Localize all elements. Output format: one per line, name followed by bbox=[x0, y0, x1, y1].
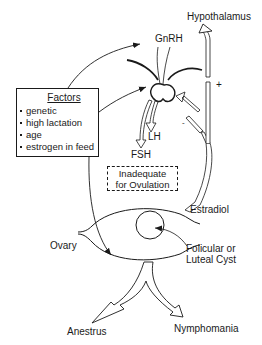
estradiol-upper-path bbox=[206, 82, 210, 143]
plus-sign-label: + bbox=[216, 79, 222, 91]
hypothalamus-curve-right bbox=[168, 68, 202, 80]
factor-item: genetic bbox=[20, 105, 96, 117]
estradiol-label: Estradiol bbox=[190, 204, 229, 216]
ovary-outline-bottom bbox=[78, 234, 200, 260]
factor-item: age bbox=[20, 129, 96, 141]
inadequate-for-ovulation-box: Inadequate for Ovulation bbox=[107, 166, 178, 191]
cyst-circle bbox=[136, 211, 164, 239]
hypothalamus-label: Hypothalamus bbox=[187, 11, 251, 23]
outcome-split-arrow bbox=[92, 262, 183, 323]
diagram-canvas: Hypothalamus GnRH + - LH FSH Estradiol O… bbox=[0, 0, 262, 345]
factors-box: Factors genetic high lactation age estro… bbox=[16, 88, 99, 157]
factors-to-hypothalamus-arrow bbox=[68, 44, 140, 88]
factors-title: Factors bbox=[20, 92, 96, 104]
factor-item: estrogen in feed bbox=[20, 141, 96, 153]
minus-sign-label: - bbox=[182, 117, 185, 129]
nymphomania-label: Nymphomania bbox=[174, 323, 238, 335]
cyst-pointer-line bbox=[155, 228, 187, 246]
inadequate-line2: for Ovulation bbox=[108, 179, 177, 190]
anestrus-label: Anestrus bbox=[67, 326, 106, 338]
cyst-label-line2: Luteal Cyst bbox=[186, 254, 236, 266]
ovary-label: Ovary bbox=[50, 240, 77, 252]
gnrh-label: GnRH bbox=[155, 33, 183, 45]
factor-item: high lactation bbox=[20, 117, 96, 129]
factors-list: genetic high lactation age estrogen in f… bbox=[20, 105, 96, 153]
estradiol-upper-path-top bbox=[203, 31, 210, 77]
fsh-label: FSH bbox=[131, 149, 151, 161]
pituitary-gland bbox=[151, 84, 175, 102]
hypothalamus-arrowhead bbox=[199, 24, 212, 33]
inadequate-line1: Inadequate bbox=[108, 168, 177, 179]
estradiol-negative-feedback-lower bbox=[186, 116, 203, 133]
hypothalamus-curve bbox=[127, 60, 158, 80]
factors-to-pituitary-arrow bbox=[99, 87, 146, 112]
ovary-outline-top bbox=[78, 209, 200, 232]
lh-label: LH bbox=[148, 131, 161, 143]
estradiol-negative-feedback-arrow bbox=[176, 92, 200, 112]
estradiol-main-path bbox=[185, 143, 212, 212]
